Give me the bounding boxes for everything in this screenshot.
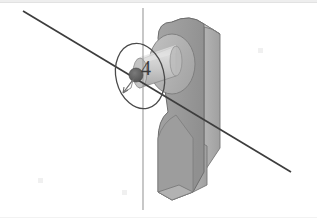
model-scene[interactable] [0, 0, 317, 218]
selection-arrow-tail-icon [124, 80, 133, 92]
cad-viewport[interactable]: 4 [0, 0, 317, 218]
viewport-artifact-right [258, 48, 263, 53]
dimension-label: 4 [141, 58, 151, 78]
viewport-artifact-left [38, 178, 43, 183]
diagonal-axis-line[interactable] [23, 11, 291, 172]
viewport-artifact-center [122, 190, 127, 195]
model-cylinder-root [170, 46, 182, 76]
viewport-bottom-border [0, 217, 317, 218]
